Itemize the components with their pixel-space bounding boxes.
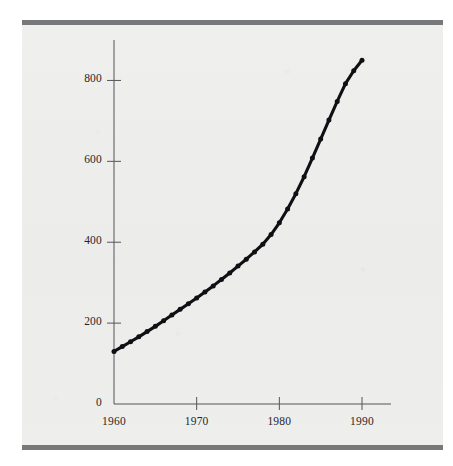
data-point-marker — [302, 174, 307, 179]
data-point-marker — [186, 301, 191, 306]
x-tick-label: 1980 — [249, 415, 309, 427]
data-point-marker — [112, 349, 117, 354]
data-point-marker — [360, 58, 365, 63]
data-point-marker — [194, 296, 199, 301]
data-point-marker — [202, 289, 207, 294]
data-point-marker — [120, 344, 125, 349]
data-point-marker — [285, 207, 290, 212]
data-point-markers — [112, 58, 365, 354]
data-point-marker — [252, 249, 257, 254]
data-point-marker — [335, 99, 340, 104]
data-point-marker — [310, 156, 315, 161]
data-point-marker — [161, 318, 166, 323]
data-point-marker — [269, 232, 274, 237]
data-point-marker — [326, 118, 331, 123]
data-series-line — [114, 60, 362, 351]
data-point-marker — [227, 270, 232, 275]
data-point-marker — [153, 324, 158, 329]
y-tick-label: 800 — [52, 72, 102, 84]
data-point-marker — [351, 68, 356, 73]
data-point-marker — [277, 220, 282, 225]
y-tick-label: 200 — [52, 315, 102, 327]
x-tick-label: 1960 — [84, 415, 144, 427]
y-tick-label: 400 — [52, 234, 102, 246]
data-point-marker — [136, 334, 141, 339]
data-point-marker — [178, 307, 183, 312]
data-point-marker — [219, 277, 224, 282]
data-point-marker — [318, 137, 323, 142]
data-point-marker — [128, 339, 133, 344]
y-tick-label: 600 — [52, 153, 102, 165]
data-point-marker — [293, 191, 298, 196]
data-point-marker — [145, 329, 150, 334]
x-tick-label: 1990 — [332, 415, 392, 427]
data-point-marker — [236, 264, 241, 269]
data-point-marker — [260, 242, 265, 247]
data-point-marker — [244, 257, 249, 262]
y-tick-label: 0 — [52, 396, 102, 408]
data-point-marker — [211, 283, 216, 288]
x-tick-label: 1970 — [167, 415, 227, 427]
data-point-marker — [343, 81, 348, 86]
figure-page: 02004006008001960197019801990 — [0, 0, 453, 466]
data-point-marker — [169, 313, 174, 318]
chart-axes — [114, 40, 391, 404]
